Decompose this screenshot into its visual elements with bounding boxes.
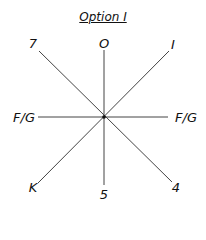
center-point bbox=[102, 115, 106, 119]
label-top-right: I bbox=[171, 37, 175, 52]
label-bottom: 5 bbox=[100, 187, 108, 202]
label-bottom-left: K bbox=[29, 180, 38, 195]
label-top-left: 7 bbox=[29, 36, 37, 51]
label-bottom-right: 4 bbox=[172, 180, 180, 195]
label-top: O bbox=[99, 36, 109, 51]
label-left: F/G bbox=[13, 110, 35, 125]
label-right: F/G bbox=[175, 110, 197, 125]
